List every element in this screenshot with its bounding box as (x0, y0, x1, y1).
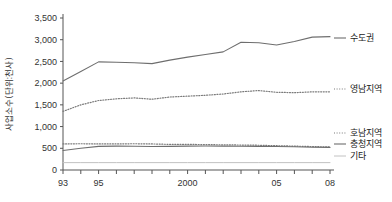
y-tick-label: 3,500 (34, 13, 57, 23)
y-tick-label: 500 (42, 143, 57, 153)
series-label-0: 수도권 (350, 32, 374, 43)
y-tick-label: 1,500 (34, 100, 57, 110)
series-label-3: 충청지역 (350, 139, 382, 149)
x-tick-label: 2000 (178, 178, 198, 188)
series-label-1: 영남지역 (350, 84, 382, 94)
y-tick-label: 1,000 (34, 122, 57, 132)
y-tick-label: 2,500 (34, 57, 57, 67)
y-tick-label: 3,000 (34, 35, 57, 45)
x-tick-label: 05 (272, 178, 282, 188)
x-tick-label: 93 (58, 178, 68, 188)
series-label-2: 호남지역 (350, 128, 382, 138)
y-axis-title: 사업소수(단위:천사) (4, 57, 14, 131)
x-tick-label: 08 (325, 178, 335, 188)
line-chart: 05001,0001,5002,0002,5003,0003,500939520… (0, 0, 392, 202)
series-line-3 (63, 146, 330, 150)
x-tick-label: 95 (94, 178, 104, 188)
series-line-1 (63, 91, 330, 112)
chart-canvas: 05001,0001,5002,0002,5003,0003,500939520… (0, 0, 392, 202)
y-tick-label: 0 (52, 165, 57, 175)
series-line-0 (63, 37, 330, 81)
y-tick-label: 2,000 (34, 78, 57, 88)
series-label-4: 기타 (350, 151, 367, 161)
